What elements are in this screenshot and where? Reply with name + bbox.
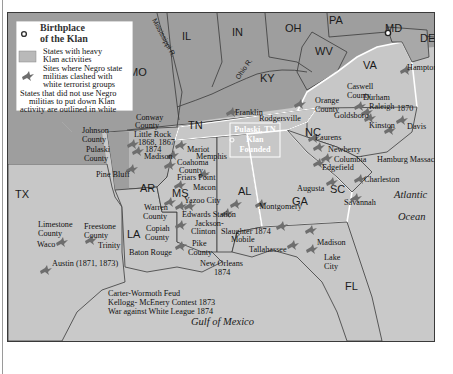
pulaski-line-2: Klan	[246, 135, 264, 144]
site-davis: Davis	[407, 122, 426, 131]
state-label-la: LA	[127, 228, 141, 240]
legend-birthplace-1: Birthplace	[40, 22, 86, 33]
site-baton-rouge: Baton Rouge	[129, 248, 172, 257]
site-pulaski-county-1: Pulaski	[86, 145, 111, 154]
site-new-orleans-year: 1874	[214, 268, 230, 277]
site-montgomery: Montgomery	[259, 202, 303, 211]
birthplace-marker-icon	[385, 30, 390, 35]
site-pike-1: Pike	[192, 239, 207, 248]
legend: Birthplace of the Klan States with heavy…	[16, 21, 133, 114]
site-johnson-2: County	[82, 135, 107, 144]
pulaski-line-1: Pulaski, TN	[234, 125, 275, 134]
legend-birthplace-2: of the Klan	[40, 33, 88, 44]
site-pulaski-county-2: County	[84, 154, 109, 163]
state-label-pa: PA	[329, 14, 344, 26]
site-carter-wormoth: Carter-Wormoth Feud	[108, 289, 180, 298]
state-label-tn: TN	[188, 119, 203, 131]
site-franklin: Franklin	[235, 108, 263, 117]
site-orange-1: Orange	[315, 96, 339, 105]
site-conway-2: County	[135, 121, 160, 130]
site-year-1870: 1870	[397, 104, 413, 113]
state-label-in: IN	[232, 26, 243, 38]
legend-heavy-2: Klan activities	[43, 55, 92, 64]
atlantic-label: Atlantic	[393, 189, 428, 200]
site-waco: Waco	[37, 240, 55, 249]
site-tallahassee: Tallahassee	[249, 245, 287, 254]
gulf-label: Gulf of Mexico	[191, 316, 254, 327]
site-trinity: Trinity	[98, 241, 121, 250]
site-copiah-2: County	[145, 233, 170, 242]
state-label-al: AL	[238, 185, 251, 197]
site-macon: Macon	[193, 183, 216, 192]
site-savannah: Savannah	[344, 198, 376, 207]
site-hampton: Hampton	[407, 63, 435, 72]
site-charleston: Charleston	[364, 175, 399, 184]
state-label-de: DE	[420, 32, 435, 44]
state-label-ar: AR	[140, 182, 155, 194]
page-edge-rule	[2, 0, 3, 374]
site-rodgersville: Rodgersville	[259, 114, 301, 123]
site-kinston: Kinston	[369, 121, 395, 130]
site-edgefield: Edgefield	[322, 163, 354, 172]
reconstruction-klan-map: Mississippi R. Ohio R. PA MD DE IL IN OH…	[7, 12, 435, 342]
site-johnson-1: Johnson	[82, 126, 109, 135]
site-edwards: Edwards Station	[182, 210, 236, 219]
pulaski-line-3: Founded	[240, 145, 271, 154]
site-white-league: War against White League 1874	[108, 307, 213, 316]
site-augusta: Augusta	[297, 184, 325, 193]
state-label-ky: KY	[260, 72, 275, 84]
site-freestone-2: County	[84, 231, 109, 240]
site-new-orleans: New Orleans	[200, 259, 243, 268]
legend-outline-3: activity are outlined in white	[20, 105, 117, 114]
site-madison-fl: Madison	[317, 238, 346, 247]
site-durham: Durham	[363, 93, 390, 102]
site-mobile: Mobile	[231, 235, 255, 244]
state-label-oh: OH	[285, 22, 302, 34]
site-pine-bluff: Pine Bluff	[96, 170, 130, 179]
site-lake-1: Lake	[324, 253, 341, 262]
site-limestone-1: Limestone	[38, 220, 73, 229]
heavy-states-swatch-icon	[19, 51, 36, 62]
site-yazoo: Yazoo City	[184, 196, 222, 205]
state-label-il: IL	[182, 30, 191, 42]
site-caswell-1: Caswell	[347, 82, 374, 91]
site-warren-2: County	[143, 212, 168, 221]
site-hamburg: Hamburg Massacre	[377, 155, 435, 164]
site-kellogg: Kellogg- McEnery Contest 1873	[108, 298, 215, 307]
site-raleigh: Raleigh	[369, 102, 394, 111]
site-newberry: Newberry	[328, 145, 362, 154]
site-freestone-1: Freestone	[84, 222, 116, 231]
site-pike-2: County	[188, 248, 213, 257]
site-austin: Austin (1871, 1873)	[52, 259, 118, 268]
ocean-label: Ocean	[398, 211, 425, 222]
state-label-tx: TX	[15, 188, 30, 200]
state-label-va: VA	[363, 59, 378, 71]
site-copiah-1: Copiah	[146, 224, 170, 233]
state-label-fl: FL	[345, 280, 358, 292]
site-jackson-2: Clinton	[191, 227, 216, 236]
state-label-wv: WV	[315, 45, 333, 57]
site-lake-2: City	[324, 262, 339, 271]
legend-clash-3: white terrorist groups	[43, 80, 115, 89]
site-goldsboro: Goldsboro	[334, 111, 369, 120]
site-madison-ar: Madison	[144, 152, 173, 161]
site-warren-1: Warren	[144, 203, 168, 212]
site-limestone-2: County	[38, 229, 63, 238]
site-laurens: Laurens	[315, 133, 341, 142]
site-friars-point: Friars Point	[177, 173, 216, 182]
